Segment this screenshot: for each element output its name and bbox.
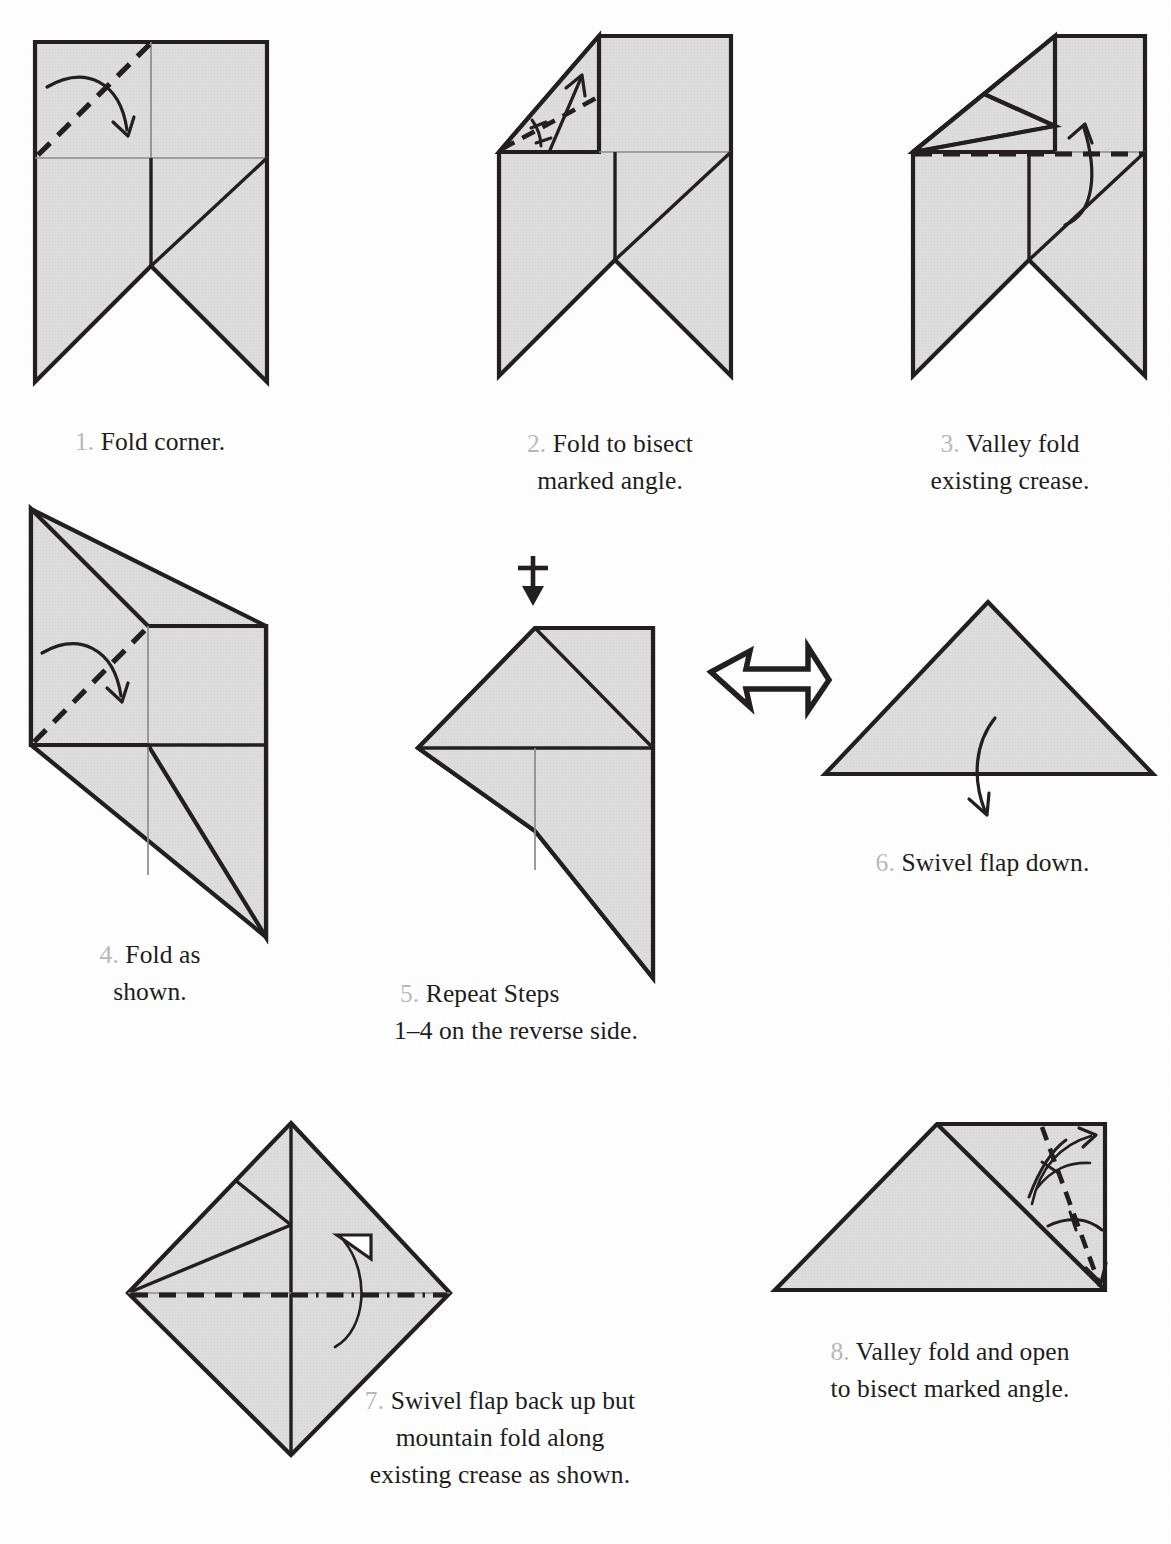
step-5-caption-line-1: Repeat Steps	[426, 979, 560, 1008]
step-2-number: 2.	[527, 429, 546, 458]
step-2-caption: 2. Fold to bisect marked angle.	[440, 426, 780, 500]
step-1: 1. Fold corner.	[0, 18, 300, 461]
step-5-caption: 5. Repeat Steps 1–4 on the reverse side.	[390, 976, 720, 1050]
step-7-number: 7.	[365, 1386, 384, 1415]
step-6-caption-line-1: Swivel flap down.	[901, 848, 1089, 877]
step-2-figure	[440, 18, 780, 408]
step-6: 6. Swivel flap down.	[805, 588, 1160, 882]
step-4: 4. Fold as shown.	[0, 495, 300, 1011]
step-8-caption-line-1: Valley fold and open	[856, 1337, 1070, 1366]
step-2-caption-line-1: Fold to bisect	[553, 429, 693, 458]
step-6-number: 6.	[876, 848, 895, 877]
paper-shape	[825, 602, 1153, 774]
step-2-caption-line-2: marked angle.	[440, 463, 780, 500]
step-1-diagram	[0, 18, 300, 408]
step-1-caption-line-1: Fold corner.	[101, 427, 225, 456]
step-5-number: 5.	[400, 979, 419, 1008]
step-7-caption: 7. Swivel flap back up but mountain fold…	[290, 1383, 710, 1494]
step-4-number: 4.	[100, 940, 119, 969]
step-8: 8. Valley fold and open to bisect marked…	[740, 1100, 1160, 1408]
step-3-caption-line-1: Valley fold	[966, 429, 1080, 458]
step-7-caption-line-3: existing crease as shown.	[290, 1457, 710, 1494]
origami-instruction-page: 1. Fold corner.	[0, 0, 1171, 1544]
step-5-diagram	[390, 548, 720, 978]
step-3-caption-line-2: existing crease.	[860, 463, 1160, 500]
step-1-figure	[0, 18, 300, 408]
step-6-diagram	[805, 588, 1160, 823]
step-2-diagram	[440, 18, 780, 408]
step-5: 5. Repeat Steps 1–4 on the reverse side.	[390, 548, 720, 1050]
step-2: 2. Fold to bisect marked angle.	[440, 18, 780, 500]
turn-over-head	[522, 586, 544, 606]
step-3: 3. Valley fold existing crease.	[860, 18, 1160, 500]
step-5-caption-line-2: 1–4 on the reverse side.	[390, 1013, 720, 1050]
turn-over-arrow-icon	[518, 556, 548, 606]
step-4-diagram	[0, 495, 300, 935]
step-8-figure	[740, 1100, 1160, 1300]
step-8-caption-line-2: to bisect marked angle.	[740, 1371, 1160, 1408]
step-6-figure	[805, 588, 1160, 823]
step-8-diagram	[740, 1100, 1160, 1300]
step-3-number: 3.	[940, 429, 959, 458]
step-4-caption: 4. Fold as shown.	[0, 937, 300, 1011]
step-4-figure	[0, 495, 300, 935]
step-8-number: 8.	[830, 1337, 849, 1366]
step-5-figure	[390, 548, 720, 978]
step-1-number: 1.	[75, 427, 94, 456]
step-1-caption: 1. Fold corner.	[0, 424, 300, 461]
step-7-caption-line-2: mountain fold along	[290, 1420, 710, 1457]
step-3-caption: 3. Valley fold existing crease.	[860, 426, 1160, 500]
step-8-caption: 8. Valley fold and open to bisect marked…	[740, 1334, 1160, 1408]
step-7-caption-line-1: Swivel flap back up but	[391, 1386, 636, 1415]
step-3-diagram	[860, 18, 1160, 408]
step-6-caption: 6. Swivel flap down.	[805, 845, 1160, 882]
step-4-caption-line-1: Fold as	[125, 940, 200, 969]
step-4-caption-line-2: shown.	[0, 974, 300, 1011]
step-3-figure	[860, 18, 1160, 408]
